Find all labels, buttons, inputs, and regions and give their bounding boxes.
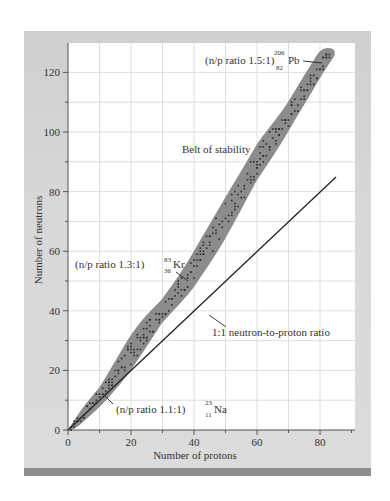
x-tick-label: 20	[126, 436, 138, 448]
na-mass-number: 23	[205, 399, 213, 407]
x-tick-label: 40	[189, 436, 201, 448]
x-tick-labels: 0 20 40 60 80	[65, 436, 326, 448]
pb-atomic-number: 82	[276, 64, 284, 72]
y-tick-labels: 0 20 40 60 80 100 120	[44, 66, 61, 436]
belt-label: Belt of stability	[182, 143, 251, 155]
y-ticks	[63, 72, 68, 430]
kr-symbol: Kr	[173, 258, 185, 270]
chart-plot: 0 20 40 60 80 100 120 0 20 40 60 80 Numb…	[0, 0, 390, 501]
pb-symbol: Pb	[288, 54, 300, 66]
kr-ratio-label: (n/p ratio 1.3:1)	[75, 258, 145, 271]
pb-ratio-label: (n/p ratio 1.5:1)	[205, 54, 275, 67]
na-atomic-number: 11	[205, 411, 212, 419]
y-tick-label: 120	[44, 66, 61, 78]
y-tick-label: 60	[49, 245, 61, 257]
y-tick-label: 40	[49, 305, 61, 317]
one-to-one-label: 1:1 neutron-to-proton ratio	[212, 326, 330, 338]
x-axis-title: Number of protons	[153, 449, 237, 461]
kr-atomic-number: 36	[164, 267, 172, 275]
na-symbol: Na	[214, 403, 227, 415]
y-tick-label: 80	[49, 186, 61, 198]
x-tick-label: 80	[315, 436, 327, 448]
y-axis-title: Number of neutrons	[32, 196, 44, 285]
pb-mass-number: 206	[274, 49, 285, 57]
x-tick-label: 60	[252, 436, 264, 448]
y-tick-label: 0	[55, 424, 61, 436]
y-tick-label: 20	[49, 364, 61, 376]
kr-mass-number: 83	[164, 256, 172, 264]
x-tick-label: 0	[65, 436, 71, 448]
x-ticks	[68, 430, 352, 435]
na-ratio-label: (n/p ratio 1.1:1)	[116, 403, 186, 416]
y-tick-label: 100	[44, 126, 61, 138]
